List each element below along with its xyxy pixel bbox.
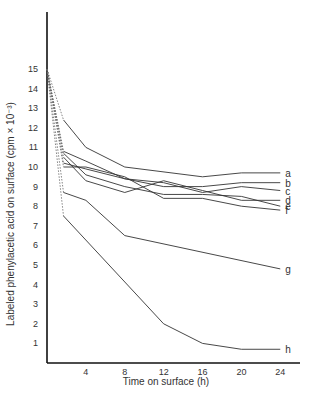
y-tick-label: 3: [33, 299, 38, 309]
series-line-a: [64, 120, 281, 177]
y-tick-label: 12: [28, 123, 38, 133]
y-tick-label: 1: [33, 338, 38, 348]
y-tick-label: 11: [29, 142, 38, 152]
y-tick-label: 10: [28, 162, 38, 172]
x-tick-label: 24: [275, 367, 285, 377]
series-line-g: [64, 192, 281, 268]
x-axis-label: Time on surface (h): [123, 376, 209, 387]
y-axis-label: Labeled phenylacetic acid on surface (cp…: [5, 102, 16, 326]
y-tick-label: 5: [33, 260, 38, 270]
series-initial-dotted-segment: [47, 69, 64, 120]
y-tick-label: 13: [28, 103, 38, 113]
y-tick-label: 14: [28, 84, 38, 94]
y-tick-label: 4: [33, 280, 38, 290]
line-chart: 123456789101112131415 4812162024 abcdefg…: [0, 0, 314, 401]
series-line-d: [64, 157, 281, 200]
series-line-h: [64, 216, 281, 349]
series-label-h: h: [285, 344, 291, 355]
y-tick-label: 15: [28, 64, 38, 74]
y-tick-label: 9: [33, 182, 38, 192]
x-tick-label: 4: [83, 367, 88, 377]
series-line-b: [64, 151, 281, 186]
series-label-f: f: [285, 205, 288, 216]
series-line-f: [64, 167, 281, 210]
series-label-g: g: [285, 264, 291, 275]
series-initial-dotted-segment: [47, 69, 64, 216]
y-tick-labels: 123456789101112131415: [28, 64, 38, 348]
y-tick-label: 8: [33, 201, 38, 211]
series-initial-dotted-segment: [47, 69, 64, 163]
y-tick-label: 2: [33, 319, 38, 329]
x-tick-label: 20: [236, 367, 246, 377]
y-tick-label: 7: [33, 221, 38, 231]
series-initial-dotted-segment: [47, 69, 64, 167]
y-tick-label: 6: [33, 240, 38, 250]
series-lines: abcdefgh: [47, 69, 291, 355]
